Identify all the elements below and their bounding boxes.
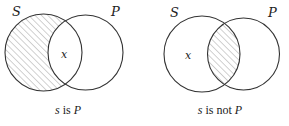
caption-predicate: P bbox=[234, 103, 243, 117]
caption-s-is-p: s is P bbox=[55, 103, 82, 117]
label-s: S bbox=[170, 5, 179, 20]
venn-diagrams-canvas: S P x s is P S P x s is not P bbox=[0, 0, 289, 126]
caption-predicate: P bbox=[73, 103, 82, 117]
label-p: P bbox=[267, 5, 277, 20]
venn-diagram-s-is-not-p: S P x s is not P bbox=[164, 5, 280, 117]
venn-diagram-s-is-p: S P x s is P bbox=[0, 0, 145, 117]
label-s: S bbox=[12, 4, 21, 19]
caption-copula: is bbox=[60, 103, 74, 117]
point-x: x bbox=[185, 49, 192, 62]
label-p: P bbox=[110, 4, 120, 19]
caption-s-is-not-p: s is not P bbox=[198, 103, 243, 117]
caption-copula: is not bbox=[202, 103, 234, 117]
point-x: x bbox=[61, 48, 68, 61]
